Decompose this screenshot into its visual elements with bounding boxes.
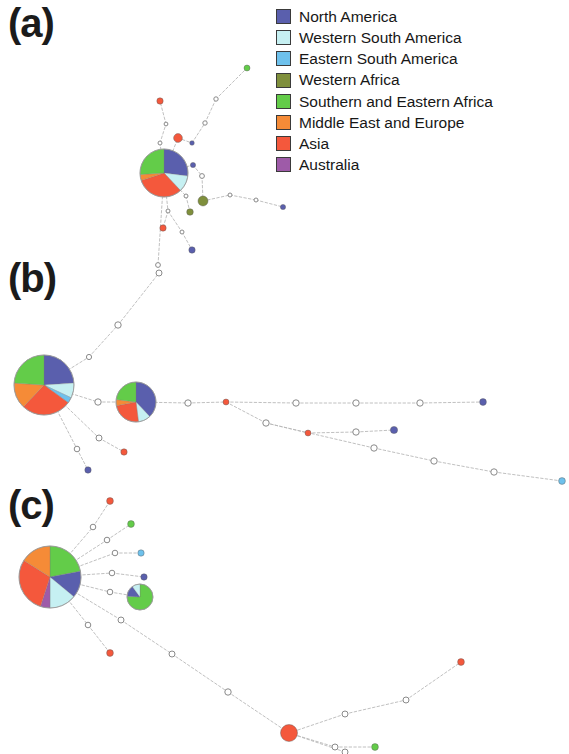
network-node-asia [107,498,114,505]
network-node-north-america [390,426,397,433]
network-nodes [140,65,286,267]
haplotype-network-figure: (a) (b) (c) North AmericaWestern South A… [0,0,569,754]
network-edge [226,402,266,423]
legend-color-swatch [276,136,291,151]
median-vector-node [203,121,207,125]
pie-node [140,149,188,197]
median-vector-node [156,263,161,268]
network-edge [230,195,256,200]
network-edge [308,432,356,433]
network-node-western-africa [198,196,208,206]
legend-label: Middle East and Europe [299,115,464,131]
median-vector-node [107,589,113,595]
median-vector-node [118,617,124,623]
network-edge [89,325,118,357]
network-edge [228,692,289,733]
median-vector-node [86,354,91,359]
network-edge [216,68,247,99]
network-edge [434,461,494,472]
median-vector-node [353,400,359,406]
network-edge [374,448,434,461]
legend-item: Australia [276,154,566,175]
pie-slice-north-america [164,149,188,176]
legend-item: Southern and Eastern Africa [276,91,566,112]
median-vector-node [228,193,232,197]
legend-item: Western South America [276,27,566,48]
network-node-asia [281,725,298,742]
pie-node [116,382,156,422]
median-vector-node [200,174,205,179]
network-nodes [19,498,464,754]
network-edges [50,501,461,752]
network-edge [93,501,110,527]
median-vector-node [342,749,348,754]
median-vector-node [109,570,115,576]
median-vector-node [115,322,121,328]
network-edge [420,402,483,403]
network-edge [99,438,124,452]
network-edge [494,472,562,481]
median-vector-node [166,209,170,213]
legend-color-swatch [276,94,291,109]
median-vector-node [491,469,497,475]
legend-label: Eastern South America [299,51,458,67]
pie-slice-southern-eastern-africa [140,149,164,175]
network-edge [205,99,216,123]
network-edge [188,402,226,403]
network-node-north-america [141,574,147,580]
median-vector-node [353,429,359,435]
median-vector-node [225,689,231,695]
median-vector-node [293,400,299,406]
median-vector-node [342,711,348,717]
network-edge [121,620,172,654]
network-edge [160,101,166,124]
legend-color-swatch [276,73,291,88]
network-node-eastern-south-america [138,550,144,556]
legend-label: Australia [299,157,359,173]
network-edge [172,654,228,692]
median-vector-node [90,524,96,530]
network-node-north-america [480,399,487,406]
network-panel-c [19,498,464,754]
network-edge [356,430,394,432]
network-node-asia [174,134,183,143]
network-node-north-america [85,467,91,473]
network-node-southern-eastern-africa [244,65,250,71]
legend-label: North America [299,9,397,25]
pie-node [127,584,153,610]
network-node-north-america [189,247,195,253]
network-edge [168,211,182,232]
network-edge [112,573,144,577]
median-vector-node [417,400,423,406]
pie-node [14,355,74,415]
median-vector-node [74,446,80,452]
median-vector-node [180,230,184,234]
legend-label: Southern and Eastern Africa [299,94,493,110]
legend-color-swatch [276,51,291,66]
legend-label: Asia [299,136,329,152]
network-edge [77,449,88,470]
median-vector-node [96,435,102,441]
network-edge [107,524,131,540]
median-vector-node [158,141,162,145]
network-node-southern-eastern-africa [372,744,379,751]
legend-item: Middle East and Europe [276,112,566,133]
legend-label: Western South America [299,30,462,46]
median-vector-node [263,420,269,426]
network-node-asia [305,430,311,436]
legend-item: North America [276,6,566,27]
legend-color-swatch [276,9,291,24]
panel-label-c: (c) [8,485,54,525]
median-vector-node [85,622,91,628]
legend-label: Western Africa [299,72,400,88]
median-vector-node [185,400,191,406]
median-vector-node [164,122,168,126]
median-vector-node [403,697,409,703]
legend-color-swatch [276,115,291,130]
network-node-north-america [190,141,195,146]
network-node-southern-eastern-africa [128,521,135,528]
median-vector-node [371,445,377,451]
median-vector-node [254,198,258,202]
network-panel-a [140,65,286,267]
median-vector-node [104,537,110,543]
